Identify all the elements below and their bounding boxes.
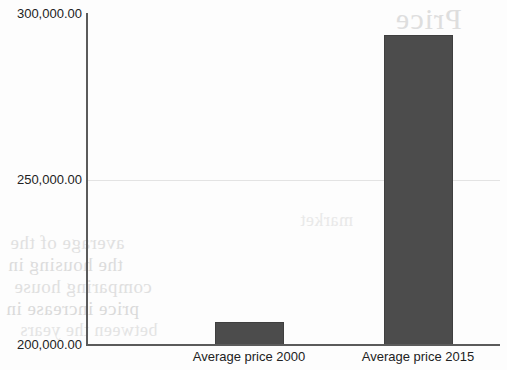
x-axis-line [86,344,500,346]
y-axis-tick-200000: 200,000.00 [0,337,82,353]
x-axis-tick-label-2015: Average price 2015 [318,349,507,364]
y-axis-tick-label: 250,000.00 [2,172,82,187]
plot-area [87,14,500,345]
y-axis-line [86,13,88,346]
y-axis-tick-250000: 250,000.00 [0,172,82,188]
bar-chart: Price average of the the housing in comp… [0,0,507,370]
bar-average-price-2000[interactable] [215,322,284,345]
bar-average-price-2015[interactable] [384,35,453,345]
y-axis-tick-label: 300,000.00 [2,6,82,21]
y-axis-tick-300000: 300,000.00 [0,6,82,22]
y-axis-tick-label: 200,000.00 [2,337,82,352]
